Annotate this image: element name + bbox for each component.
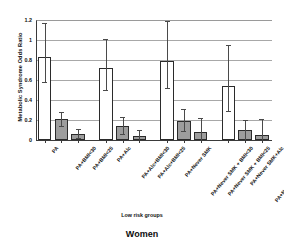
x-axis-category-labels: PAPA+BMI<30PA+BMI<25PA+AlcPA+Alc+BMI<30P… bbox=[0, 0, 284, 247]
x-axis-title: Low risk groups bbox=[0, 212, 284, 218]
figure-caption: Women bbox=[0, 229, 284, 239]
x-category-label: PA+Never SMK bbox=[184, 145, 213, 178]
x-category-label: PA bbox=[50, 145, 59, 154]
chart-figure: Metabolic Syndrome Odds Ratio 00.20.40.6… bbox=[0, 0, 284, 247]
x-category-label: PA+Alc bbox=[115, 145, 131, 163]
